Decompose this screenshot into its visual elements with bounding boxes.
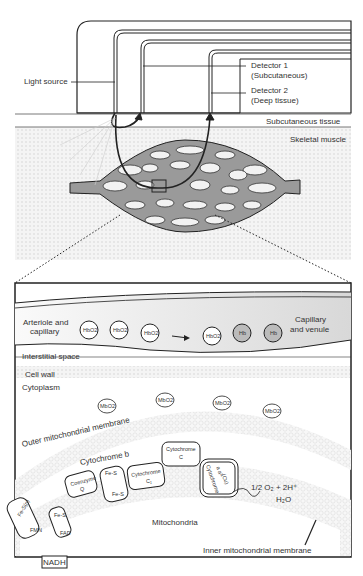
hb-cell-label: HbO2 <box>206 333 220 339</box>
reaction-reactants: 1/2 O₂ + 2H⁺ <box>251 483 297 492</box>
hb-cell-label: Hb <box>270 330 277 336</box>
complex-label: Cytochrome <box>166 446 196 452</box>
complex-label: FAD <box>60 530 71 536</box>
detector2-sub-label: (Deep tissue) <box>251 96 299 105</box>
mitochondria-label: Mitochondria <box>152 518 198 527</box>
complex-label: Fe-S <box>112 491 124 497</box>
complex-label: Fe-S <box>54 512 66 518</box>
hb-cell-label: HbO2 <box>113 327 127 333</box>
mb-cell-label: MbO2 <box>265 408 280 414</box>
probe-fibers <box>77 21 351 113</box>
cytoplasm-label: Cytoplasm <box>22 383 60 392</box>
hb-cell-label: HbO2 <box>144 330 158 336</box>
mb-cell-label: MbO2 <box>158 397 173 403</box>
complex-label: Fe-S <box>105 470 117 476</box>
cell-wall-label: Cell wall <box>25 370 55 379</box>
interstitial-label: Interstitial space <box>22 352 80 361</box>
complex-label: C <box>179 454 183 460</box>
arteriole-label: Arteriole and <box>23 318 68 327</box>
diagram-canvas <box>0 0 363 576</box>
subcutaneous-label: Subcutaneous tissue <box>266 117 340 126</box>
arteriole-sub-label: capillary <box>30 327 59 336</box>
mb-cell-label: MbO2 <box>100 403 115 409</box>
detector2-label: Detector 2 <box>251 86 288 95</box>
detector1-sub-label: (Subcutaneous) <box>251 71 307 80</box>
cell-wall-band <box>16 366 350 378</box>
detector1-label: Detector 1 <box>251 61 288 70</box>
complex-label: C₁ <box>146 478 152 484</box>
venule-sub-label: and venule <box>290 325 329 334</box>
nadh-label: NADH <box>43 558 66 567</box>
reaction-product: H₂O <box>276 495 291 504</box>
hb-cell-label: Hb <box>239 330 246 336</box>
skeletal-muscle-label: Skeletal muscle <box>290 135 346 144</box>
light-source-label: Light source <box>24 77 68 86</box>
inner-membrane-label: Inner mitochondrial membrane <box>203 546 312 555</box>
complex-label: FMN <box>30 527 42 533</box>
mb-cell-label: MbO2 <box>215 400 230 406</box>
venule-label: Capillary <box>295 315 326 324</box>
complex-label: Q <box>80 486 84 492</box>
hb-cell-label: HbO2 <box>83 327 97 333</box>
